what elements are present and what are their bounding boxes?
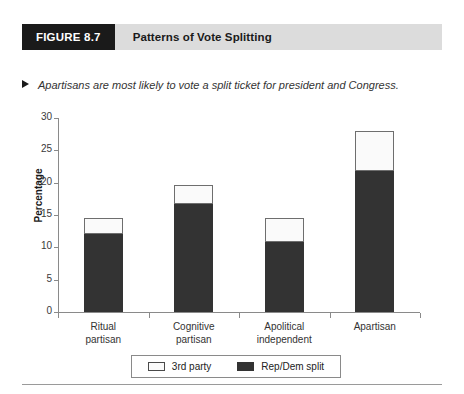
bar-segment-rep-dem-split — [174, 204, 213, 312]
y-tick-mark — [54, 150, 58, 151]
legend-label: 3rd party — [172, 361, 211, 372]
y-tick-label: 20 — [26, 176, 52, 187]
legend-label: Rep/Dem split — [261, 361, 324, 372]
x-axis-category-label: Apartisan — [330, 320, 421, 333]
y-tick-label: 30 — [26, 111, 52, 122]
x-axis-category-line: Ritual — [58, 320, 149, 333]
y-axis-title: Percentage — [33, 136, 44, 256]
figure-subtitle-text: Apartisans are most likely to vote a spl… — [38, 79, 399, 91]
y-tick-label: 5 — [26, 273, 52, 284]
x-axis-category-label: Cognitivepartisan — [149, 320, 240, 346]
legend-item: 3rd party — [148, 361, 211, 372]
bar-segment-3rd-party — [174, 185, 213, 204]
figure-title: Patterns of Vote Splitting — [115, 24, 272, 50]
bottom-divider — [22, 384, 442, 385]
triangle-right-icon — [22, 80, 29, 88]
x-tick-mark — [330, 313, 331, 318]
legend-swatch-icon — [237, 362, 254, 371]
y-tick-mark — [54, 280, 58, 281]
x-axis-category-line: partisan — [149, 333, 240, 346]
y-tick-label: 15 — [26, 208, 52, 219]
y-tick-mark — [54, 118, 58, 119]
x-axis-category-label: Ritualpartisan — [58, 320, 149, 346]
x-axis-category-line: partisan — [58, 333, 149, 346]
x-axis-category-line: Cognitive — [149, 320, 240, 333]
y-tick-mark — [54, 183, 58, 184]
bar-segment-3rd-party — [355, 131, 394, 171]
bar-segment-rep-dem-split — [265, 242, 304, 312]
bar-segment-3rd-party — [84, 218, 123, 234]
x-tick-mark — [58, 313, 59, 318]
figure-subtitle: Apartisans are most likely to vote a spl… — [22, 79, 399, 91]
x-axis-category-line: independent — [239, 333, 330, 346]
bar-segment-3rd-party — [265, 218, 304, 243]
legend-swatch-icon — [148, 362, 165, 371]
y-tick-mark — [54, 247, 58, 248]
x-tick-mark — [420, 313, 421, 318]
x-axis-category-label: Apoliticalindependent — [239, 320, 330, 346]
bar-segment-rep-dem-split — [84, 234, 123, 312]
y-tick-label: 0 — [26, 305, 52, 316]
x-axis-category-line: Apolitical — [239, 320, 330, 333]
bar-segment-rep-dem-split — [355, 171, 394, 312]
y-tick-mark — [54, 312, 58, 313]
y-tick-label: 10 — [26, 240, 52, 251]
chart-legend: 3rd partyRep/Dem split — [131, 355, 341, 378]
y-axis-line — [58, 118, 59, 313]
x-axis-line — [58, 312, 420, 313]
figure-number-label: FIGURE 8.7 — [22, 24, 115, 50]
legend-item: Rep/Dem split — [237, 361, 324, 372]
x-tick-mark — [239, 313, 240, 318]
y-tick-label: 25 — [26, 143, 52, 154]
stacked-bar-chart: Percentage 051015202530 RitualpartisanCo… — [0, 0, 464, 394]
x-axis-category-line: Apartisan — [330, 320, 421, 333]
x-tick-mark — [149, 313, 150, 318]
y-tick-mark — [54, 215, 58, 216]
figure-header: FIGURE 8.7 Patterns of Vote Splitting — [22, 24, 442, 50]
